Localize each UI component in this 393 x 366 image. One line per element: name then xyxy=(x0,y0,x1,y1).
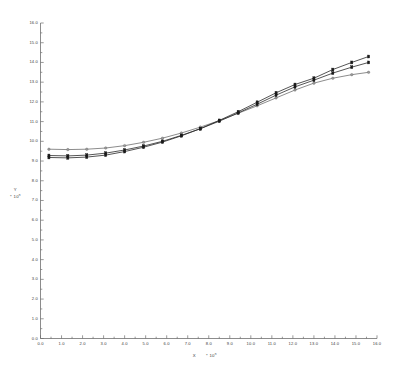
data-point-marker xyxy=(332,72,334,75)
data-series-group xyxy=(48,55,370,159)
y-tick-label: 11.0 xyxy=(30,120,38,124)
y-tick-label: 7.0 xyxy=(32,198,38,202)
y-tick-label: 15.0 xyxy=(29,41,38,45)
x-tick-label: 12.0 xyxy=(289,342,298,346)
data-point-marker xyxy=(332,77,335,80)
data-point-marker xyxy=(180,134,182,137)
data-point-marker xyxy=(367,71,370,74)
data-point-marker xyxy=(294,89,297,92)
y-tick-label: 16.0 xyxy=(29,21,38,25)
data-point-marker xyxy=(351,61,353,64)
y-axis-title-multiplier-row: * 10n xyxy=(10,192,21,198)
data-point-marker xyxy=(67,148,70,151)
y-tick-label: 3.0 xyxy=(32,277,38,281)
x-tick-label: 16.0 xyxy=(373,342,382,346)
y-tick-label: 2.0 xyxy=(32,297,38,301)
x-tick-label: 14.0 xyxy=(331,342,340,346)
y-tick-label: 1.0 xyxy=(32,317,38,321)
y-axis-title: Y * 10n xyxy=(10,186,21,198)
y-tick-label: 5.0 xyxy=(32,238,38,242)
series-line xyxy=(49,72,369,149)
y-tick-label: 13.0 xyxy=(29,80,38,84)
x-axis-title-multiplier: * 10 xyxy=(206,353,215,358)
y-axis-title-exponent: n xyxy=(19,192,21,196)
x-axis-title-exponent: n xyxy=(215,352,217,356)
data-point-marker xyxy=(48,148,51,151)
y-axis-title-symbol: Y xyxy=(14,186,17,191)
x-tick-label: 1.0 xyxy=(58,342,64,346)
x-axis-ticks xyxy=(41,335,378,338)
series-line xyxy=(49,62,369,155)
series-line xyxy=(49,57,369,158)
data-point-marker xyxy=(104,147,107,150)
data-point-marker xyxy=(368,61,370,64)
y-tick-label: 14.0 xyxy=(29,60,38,64)
data-point-marker xyxy=(124,150,126,153)
data-point-marker xyxy=(142,141,145,144)
x-tick-label: 15.0 xyxy=(352,342,361,346)
data-point-marker xyxy=(368,55,370,58)
data-point-marker xyxy=(275,91,277,94)
data-point-marker xyxy=(256,101,258,104)
x-tick-label: 0.0 xyxy=(37,342,43,346)
data-point-marker xyxy=(86,156,88,159)
series-2 xyxy=(48,61,370,157)
x-tick-label: 7.0 xyxy=(185,342,191,346)
y-tick-label: 4.0 xyxy=(32,258,38,262)
data-point-marker xyxy=(313,82,316,85)
data-point-marker xyxy=(218,119,220,122)
y-tick-label: 9.0 xyxy=(32,159,38,163)
data-point-marker xyxy=(161,137,164,140)
y-axis-title-symbol-row: Y xyxy=(10,186,21,191)
y-tick-label: 10.0 xyxy=(29,139,38,143)
series-3 xyxy=(48,55,370,159)
figure-canvas: 0.01.02.03.04.05.06.07.08.09.010.011.012… xyxy=(0,0,393,366)
y-tick-label: 12.0 xyxy=(29,100,38,104)
data-point-marker xyxy=(143,146,145,149)
x-tick-label: 3.0 xyxy=(101,342,107,346)
data-point-marker xyxy=(313,77,315,80)
axes-group xyxy=(41,23,378,339)
x-tick-label: 2.0 xyxy=(79,342,85,346)
data-point-marker xyxy=(48,156,50,159)
data-point-marker xyxy=(237,110,239,113)
data-point-marker xyxy=(199,127,201,130)
y-tick-label: 8.0 xyxy=(32,179,38,183)
y-tick-label: 6.0 xyxy=(32,218,38,222)
data-point-marker xyxy=(105,154,107,157)
x-tick-label: 10.0 xyxy=(247,342,256,346)
x-tick-label: 11.0 xyxy=(268,342,276,346)
x-tick-label: 9.0 xyxy=(227,342,233,346)
x-axis-title: X * 10n xyxy=(193,352,217,358)
y-tick-label: 0.0 xyxy=(32,336,38,340)
data-point-marker xyxy=(332,68,334,71)
data-point-marker xyxy=(351,73,354,76)
data-point-marker xyxy=(86,148,89,151)
data-point-marker xyxy=(294,83,296,86)
data-point-marker xyxy=(161,141,163,144)
series-1 xyxy=(48,71,370,151)
data-point-marker xyxy=(351,66,353,69)
x-tick-label: 6.0 xyxy=(164,342,170,346)
x-tick-label: 5.0 xyxy=(143,342,149,346)
x-tick-label: 4.0 xyxy=(122,342,128,346)
x-axis-title-symbol: X xyxy=(193,353,196,358)
y-axis-ticks xyxy=(41,23,44,339)
data-point-marker xyxy=(123,144,126,147)
plot-svg xyxy=(0,0,393,366)
x-tick-label: 13.0 xyxy=(310,342,319,346)
y-axis-title-multiplier: * 10 xyxy=(10,194,19,199)
data-point-marker xyxy=(67,156,69,159)
x-tick-label: 8.0 xyxy=(206,342,212,346)
data-point-marker xyxy=(275,97,278,100)
